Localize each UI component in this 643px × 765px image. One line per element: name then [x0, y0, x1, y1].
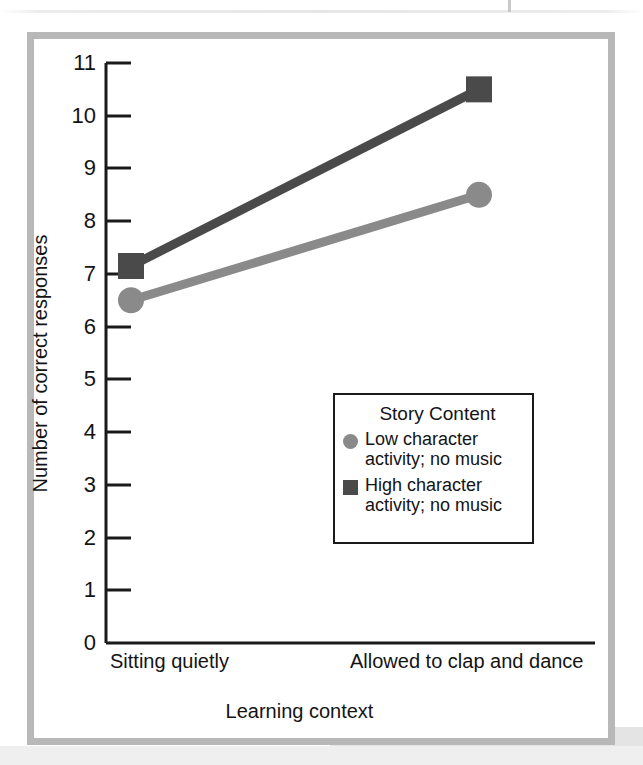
chart-legend: Story Content Low character activity; no… — [333, 393, 534, 544]
y-tick-label-1: 1 — [58, 579, 96, 601]
y-tick-label-7: 7 — [58, 263, 96, 285]
y-tick-label-5: 5 — [58, 368, 96, 390]
legend-entry-high-line1: High character — [365, 475, 482, 495]
y-tick-label-9: 9 — [58, 157, 96, 179]
y-tick-label-11: 11 — [58, 52, 96, 74]
y-tick-label-4: 4 — [58, 421, 96, 443]
legend-entry-high-character-activity: High character activity; no music — [335, 475, 532, 515]
legend-entry-low-line1: Low character — [365, 429, 478, 449]
legend-entry-low-line2: activity; no music — [365, 449, 502, 469]
legend-entry-high-line2: activity; no music — [365, 495, 502, 515]
legend-square-marker-icon — [343, 480, 358, 495]
y-tick-label-6: 6 — [58, 316, 96, 338]
scan-artifact-top-tick — [508, 0, 511, 12]
x-category-label-sitting-quietly: Sitting quietly — [110, 650, 229, 673]
x-axis-title: Learning context — [0, 700, 643, 723]
y-tick-label-8: 8 — [58, 210, 96, 232]
y-tick-label-3: 3 — [58, 474, 96, 496]
x-category-label-allowed-to-clap: Allowed to clap and dance — [350, 650, 584, 673]
legend-title: Story Content — [335, 403, 532, 425]
y-tick-label-10: 10 — [58, 105, 96, 127]
legend-circle-marker-icon — [343, 434, 358, 449]
figure-frame — [27, 32, 615, 745]
legend-entry-low-character-activity: Low character activity; no music — [335, 429, 532, 469]
scan-artifact-top-line — [0, 10, 643, 13]
scan-artifact-bottom-edge — [0, 746, 643, 765]
x-axis-title-text: Learning context — [226, 700, 374, 722]
y-tick-label-0: 0 — [58, 632, 96, 654]
y-axis-title: Number of correct responses — [29, 184, 52, 544]
legend-entry-high-label: High character activity; no music — [365, 475, 502, 515]
y-tick-label-2: 2 — [58, 527, 96, 549]
figure-root: 11 10 9 8 7 6 5 4 3 2 1 0 Number of corr… — [0, 0, 643, 765]
legend-entry-low-label: Low character activity; no music — [365, 429, 502, 469]
